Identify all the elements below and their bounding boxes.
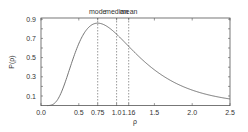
y-tick-label: 0.5 [26,54,36,61]
y-tick-label: 0.1 [26,93,36,100]
marker-label-mode: mode [89,8,107,15]
y-axis: 0.10.30.50.70.9 [26,16,230,100]
x-tick-label: 0.5 [74,109,84,116]
x-tick-label: 1.5 [150,109,160,116]
x-axis-label: ρ [133,118,137,126]
statistic-markers: modemedianmean [89,8,138,106]
x-tick-label: 2.0 [187,109,197,116]
density-curve [47,23,230,105]
y-tick-label: 0.9 [26,16,36,23]
y-tick-label: 0.3 [26,73,36,80]
x-tick-label: 2.5 [225,109,235,116]
plot-frame [41,18,230,106]
marker-label-mean: mean [120,8,138,15]
x-tick-label: 1.16 [122,109,136,116]
y-tick-label: 0.7 [26,35,36,42]
x-tick-label: 1.0 [112,109,122,116]
y-axis-label: P(ρ) [8,55,16,68]
x-axis: 0.00.50.751.01.161.52.02.5 [36,18,235,116]
lognormal-density-chart: 0.10.30.50.70.9 0.00.50.751.01.161.52.02… [0,0,248,132]
x-tick-label: 0.0 [36,109,46,116]
x-tick-label: 0.75 [91,109,105,116]
